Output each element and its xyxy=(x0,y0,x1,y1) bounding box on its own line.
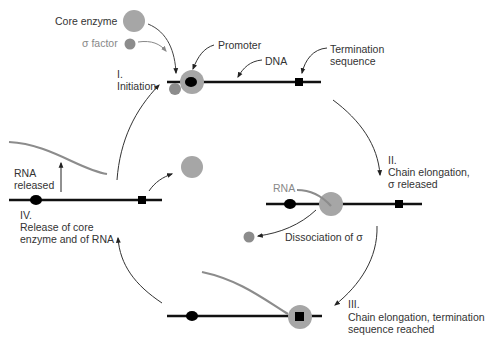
promoter-site-3 xyxy=(186,311,198,321)
label-termination-2: sequence xyxy=(330,55,376,68)
label-step2-line2: σ released xyxy=(388,178,438,191)
termination-site-3 xyxy=(295,312,304,321)
termination-site xyxy=(295,78,303,86)
label-sigma-factor: σ factor xyxy=(82,37,118,50)
arrow-III-to-IV xyxy=(118,238,162,303)
label-rna-released-1: RNA xyxy=(14,167,36,180)
holoenzyme-sigma xyxy=(169,83,181,95)
label-step2-num: II. xyxy=(388,154,397,167)
released-core-enzyme xyxy=(181,156,203,178)
termination-site-2 xyxy=(395,200,403,208)
dna-pointer xyxy=(238,60,262,77)
promoter-site-2 xyxy=(284,199,296,209)
promoter-site xyxy=(185,77,197,87)
label-step3-line2: sequence reached xyxy=(348,323,434,336)
label-promoter: Promoter xyxy=(218,39,261,52)
label-step1-num: I. xyxy=(117,68,123,81)
core-release-arrow xyxy=(149,174,172,191)
free-sigma-factor xyxy=(125,39,136,50)
termination-pointer xyxy=(302,48,327,73)
label-step3-line1: Chain elongation, termination xyxy=(348,311,485,324)
label-core-enzyme: Core enzyme xyxy=(55,15,117,28)
label-step4-line1: Release of core xyxy=(20,221,94,234)
label-termination-1: Termination xyxy=(330,43,384,56)
label-step4-line2: enzyme and of RNA xyxy=(20,233,114,246)
label-dissociation: Dissociation of σ xyxy=(285,231,363,244)
core-to-dna-arrow xyxy=(148,24,176,73)
promoter-site-4 xyxy=(30,195,42,205)
free-core-enzyme xyxy=(123,10,145,32)
label-step3-num: III. xyxy=(348,298,360,311)
label-step2-line1: Chain elongation, xyxy=(388,166,470,179)
promoter-pointer xyxy=(193,45,214,69)
label-rna-bound: RNA xyxy=(273,182,295,195)
label-step1-name: Initiation xyxy=(117,80,156,93)
label-step4-num: IV. xyxy=(20,209,32,222)
sigma-to-dna-arrow xyxy=(138,41,166,51)
label-dna: DNA xyxy=(265,55,287,68)
label-rna-released-2: released xyxy=(14,179,54,192)
rna-chain-3 xyxy=(202,272,288,314)
released-sigma xyxy=(244,232,255,243)
core-enzyme-2 xyxy=(319,192,343,216)
arrow-IV-to-I xyxy=(117,85,159,180)
arrow-I-to-II xyxy=(333,100,380,175)
termination-site-4 xyxy=(138,196,146,204)
